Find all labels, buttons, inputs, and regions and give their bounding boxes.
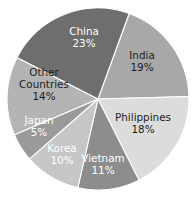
- slice-label-vietnam: Vietnam: [81, 152, 124, 164]
- slice-label-japan: Japan: [24, 114, 54, 126]
- pie-chart-canvas: India19%Philippines18%Vietnam11%Korea10%…: [0, 0, 195, 200]
- slice-label-philippines: Philippines: [115, 111, 171, 123]
- slice-value-philippines: 18%: [131, 123, 154, 135]
- slice-label-korea: Korea: [47, 142, 76, 154]
- slice-value-japan: 5%: [31, 126, 48, 138]
- slice-value-vietnam: 11%: [91, 164, 114, 176]
- slice-value-china: 23%: [72, 37, 95, 49]
- slice-label-china: China: [69, 25, 99, 37]
- slice-value-india: 19%: [130, 61, 153, 73]
- slice-label-india: India: [129, 49, 155, 61]
- slice-value-other-countries: 14%: [32, 90, 55, 102]
- pie-chart: India19%Philippines18%Vietnam11%Korea10%…: [0, 0, 195, 200]
- slice-label-other-countries: Other: [29, 66, 59, 78]
- slice-value-korea: 10%: [50, 154, 73, 166]
- slice-label-other-countries: Countries: [19, 78, 69, 90]
